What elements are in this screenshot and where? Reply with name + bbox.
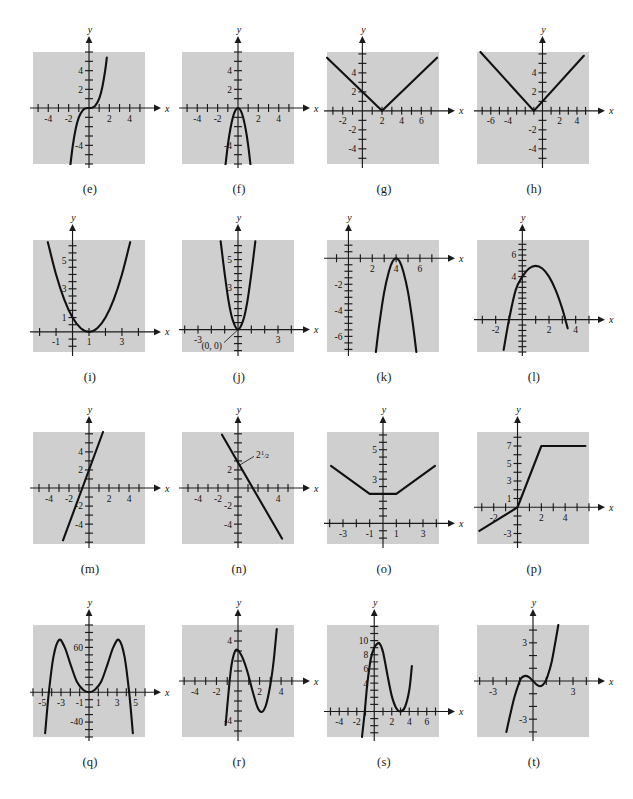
y-axis-label-e: y: [87, 24, 93, 35]
y-tick-label-g: 2: [352, 87, 357, 97]
panel-caption-f: (f): [162, 182, 316, 197]
plot-plate-g: [327, 52, 439, 164]
y-tick-label-m: -4: [75, 520, 83, 530]
x-tick-label-t: 3: [571, 687, 576, 697]
graph-panel-p: 24-21357-3xy(p): [457, 410, 611, 574]
x-tick-label-o: -3: [339, 529, 347, 539]
x-tick-label-e: -4: [44, 114, 52, 124]
y-tick-label-h: 2: [532, 87, 537, 97]
x-tick-label-e: 4: [127, 114, 132, 124]
x-tick-label-r: -4: [191, 687, 199, 697]
x-tick-label-q: 5: [133, 698, 138, 708]
x-tick-label-r: -2: [213, 687, 221, 697]
y-tick-label-k: -2: [335, 280, 343, 290]
x-tick-label-k: 6: [418, 264, 423, 274]
y-tick-label-n: -2: [224, 501, 232, 511]
panel-caption-l: (l): [457, 370, 611, 385]
graph-svg-q: 135-5-3-160-40xy: [13, 603, 167, 749]
x-tick-label-s: 6: [424, 717, 429, 727]
graph-panel-l: 24-246xy(l): [457, 218, 611, 382]
x-tick-label-n: -2: [214, 494, 222, 504]
graph-svg-e: 24-4-224-4xy: [13, 30, 167, 176]
y-tick-label-o: 3: [372, 475, 377, 485]
y-tick-label-p: 1: [507, 494, 512, 504]
figure-sheet: 24-4-224-4xy(e)24-4-224-4xy(f)246-224-2-…: [0, 0, 633, 799]
panel-caption-e: (e): [13, 182, 167, 197]
x-tick-label-k: 2: [370, 264, 375, 274]
graph-svg-m: 24-4-224-2-4xy: [13, 410, 167, 556]
x-axis-arrow-e: [154, 105, 161, 112]
graph-panel-k: 246-2-4-6xy(k): [307, 218, 461, 382]
y-axis-arrow-i: [69, 224, 76, 231]
panel-caption-i: (i): [13, 370, 167, 385]
y-axis-arrow-k: [345, 224, 352, 231]
x-tick-label-l: 4: [573, 325, 578, 335]
y-axis-label-j: y: [236, 212, 242, 223]
graph-panel-r: 24-4-24-4xy(r): [162, 603, 316, 767]
x-tick-label-g: 4: [399, 116, 404, 126]
x-tick-label-t: -3: [489, 687, 497, 697]
x-tick-label-i: 1: [87, 337, 92, 347]
x-axis-label-p: x: [608, 502, 614, 513]
panel-caption-p: (p): [457, 562, 611, 577]
x-tick-label-o: 1: [394, 529, 399, 539]
y-tick-label-f: 4: [227, 66, 232, 76]
y-axis-label-m: y: [87, 404, 93, 415]
y-axis-arrow-e: [86, 36, 93, 43]
y-axis-arrow-n: [235, 416, 242, 423]
y-tick-label-g: -4: [348, 144, 356, 154]
graph-panel-q: 135-5-3-160-40xy(q): [13, 603, 167, 767]
y-axis-arrow-p: [514, 416, 521, 423]
y-tick-label-g: 4: [352, 68, 357, 78]
graph-svg-l: 24-246xy: [457, 218, 611, 364]
y-tick-label-s: 10: [359, 636, 369, 646]
x-tick-label-m: -2: [65, 494, 73, 504]
x-tick-label-e: -2: [65, 114, 73, 124]
x-axis-arrow-p: [598, 504, 605, 511]
x-tick-label-f: -2: [214, 114, 222, 124]
x-tick-label-f: -4: [193, 114, 201, 124]
y-axis-label-o: y: [381, 404, 387, 415]
y-axis-arrow-h: [539, 36, 546, 43]
graph-svg-o: 13-3-135xy: [307, 410, 461, 556]
x-tick-label-s: -4: [335, 717, 343, 727]
x-axis-label-t: x: [608, 676, 614, 687]
panel-caption-s: (s): [307, 755, 461, 770]
x-axis-arrow-h: [598, 107, 605, 114]
y-tick-label-p: 7: [507, 441, 512, 451]
plot-plate-p: [477, 432, 589, 544]
graph-panel-i: 13-1135xy(i): [13, 218, 167, 382]
x-tick-label-o: -1: [366, 529, 374, 539]
panel-caption-k: (k): [307, 370, 461, 385]
panel-caption-t: (t): [457, 755, 611, 770]
x-tick-label-r: 4: [279, 687, 284, 697]
x-tick-label-l: 2: [547, 325, 552, 335]
y-tick-label-r: 4: [227, 636, 232, 646]
graph-panel-t: 3-33-3xy(t): [457, 603, 611, 767]
graph-svg-k: 246-2-4-6xy: [307, 218, 461, 364]
x-axis-arrow-o: [448, 520, 455, 527]
y-axis-arrow-r: [235, 609, 242, 616]
y-axis-arrow-j: [235, 224, 242, 231]
y-tick-label-n: 2: [227, 465, 232, 475]
panel-caption-o: (o): [307, 562, 461, 577]
x-axis-arrow-k: [448, 255, 455, 262]
y-axis-label-r: y: [236, 597, 242, 608]
graph-svg-t: 3-33-3xy: [457, 603, 611, 749]
y-axis-label-k: y: [346, 212, 352, 223]
graph-panel-h: 24-6-424-2-4xy(h): [457, 30, 611, 194]
x-tick-label-g: 2: [380, 116, 385, 126]
y-axis-arrow-f: [235, 36, 242, 43]
annotation-label-j: (0, 0): [201, 341, 222, 352]
y-tick-label-p: 5: [507, 459, 512, 469]
y-tick-label-i: 1: [62, 313, 67, 323]
plot-plate-s: [327, 625, 439, 737]
y-axis-label-q: y: [87, 597, 93, 608]
graph-panel-f: 24-4-224-4xy(f): [162, 30, 316, 194]
x-tick-label-f: 4: [276, 114, 281, 124]
y-tick-label-p: -3: [504, 529, 512, 539]
graph-svg-f: 24-4-224-4xy: [162, 30, 316, 176]
y-tick-label-e: -4: [75, 141, 83, 151]
y-tick-label-e: 4: [78, 66, 83, 76]
graph-panel-j: 3-335xy(0, 0)(j): [162, 218, 316, 382]
